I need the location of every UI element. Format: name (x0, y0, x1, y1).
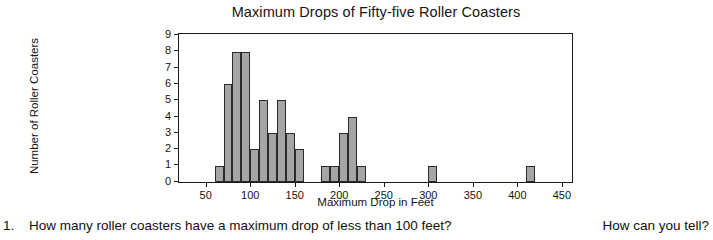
x-axis-tick (206, 182, 207, 187)
histogram-bar (526, 166, 535, 182)
y-axis-tick (174, 181, 179, 182)
y-axis-tick-label: 7 (165, 61, 171, 73)
x-axis-title: Maximum Drop in Feet (178, 196, 573, 208)
histogram-bar (268, 133, 277, 182)
y-axis-tick-label: 0 (165, 175, 171, 187)
histogram-bar (339, 133, 348, 182)
y-axis-tick-label: 9 (165, 28, 171, 40)
x-axis-tick (517, 182, 518, 187)
histogram-bar (348, 117, 357, 182)
question-row: 1. How many roller coasters have a maxim… (0, 216, 713, 240)
histogram-bar (286, 133, 295, 182)
histogram-figure: Maximum Drops of Fifty-five Roller Coast… (0, 0, 713, 213)
histogram-bar (250, 149, 259, 182)
y-axis-tick (174, 132, 179, 133)
y-axis-title: Number of Roller Coasters (28, 26, 40, 186)
y-axis-tick (174, 34, 179, 35)
question-number: 1. (3, 218, 14, 233)
y-axis-tick (174, 83, 179, 84)
histogram-bar (277, 100, 286, 182)
histogram-bar (259, 100, 268, 182)
y-axis-tick (174, 164, 179, 165)
y-axis-tick-label: 4 (165, 110, 171, 122)
y-axis-tick (174, 50, 179, 51)
plot-inner: 012345678950100150200250300350400450 (179, 34, 572, 182)
y-axis-tick (174, 67, 179, 68)
x-axis-tick (339, 182, 340, 187)
y-axis-tick-label: 6 (165, 77, 171, 89)
y-axis-tick-label: 2 (165, 142, 171, 154)
histogram-bar (241, 52, 250, 182)
x-axis-tick (562, 182, 563, 187)
histogram-bar (330, 166, 339, 182)
y-axis-tick (174, 99, 179, 100)
y-axis-tick-label: 1 (165, 158, 171, 170)
histogram-bar (224, 84, 233, 182)
question-text: How many roller coasters have a maximum … (29, 218, 451, 233)
histogram-bar (232, 52, 241, 182)
x-axis-tick (428, 182, 429, 187)
x-axis-tick (295, 182, 296, 187)
histogram-bar (321, 166, 330, 182)
y-axis-tick-label: 5 (165, 93, 171, 105)
y-axis-tick-label: 3 (165, 126, 171, 138)
x-axis-tick (384, 182, 385, 187)
plot-area: 012345678950100150200250300350400450 (178, 33, 573, 183)
question-tail-text: How can you tell? (602, 218, 709, 233)
histogram-bar (295, 149, 304, 182)
chart-title: Maximum Drops of Fifty-five Roller Coast… (178, 4, 574, 20)
x-axis-tick (473, 182, 474, 187)
y-axis-tick (174, 148, 179, 149)
y-axis-tick-label: 8 (165, 44, 171, 56)
histogram-bar (357, 166, 366, 182)
y-axis-tick (174, 116, 179, 117)
histogram-bar (215, 166, 224, 182)
x-axis-tick (250, 182, 251, 187)
histogram-bar (428, 166, 437, 182)
